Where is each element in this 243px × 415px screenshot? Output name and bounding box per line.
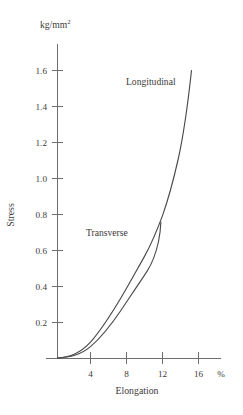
x-tick-label-8: 8 xyxy=(124,369,129,379)
y-axis-unit-exponent: 2 xyxy=(67,18,70,25)
x-tick-label-4: 4 xyxy=(88,369,93,379)
y-axis-unit-text: kg/mm xyxy=(40,19,68,30)
y-tick-label-0-6: 0.6 xyxy=(36,246,48,256)
x-axis-unit-label: % xyxy=(217,369,225,379)
y-tick-label-1-4: 1.4 xyxy=(36,102,48,112)
x-tick-label-12: 12 xyxy=(158,369,168,379)
y-axis-unit-label: kg/mm2 xyxy=(40,18,70,30)
x-tick-label-16: 16 xyxy=(194,369,204,379)
y-tick-label-1-6: 1.6 xyxy=(36,66,48,76)
y-tick-label-0-4: 0.4 xyxy=(36,282,48,292)
stress-elongation-chart: 1.6 1.4 1.2 1.0 0.8 0.6 0.4 0.2 4 8 12 1… xyxy=(0,0,243,415)
chart-canvas: 1.6 1.4 1.2 1.0 0.8 0.6 0.4 0.2 4 8 12 1… xyxy=(0,0,243,415)
y-tick-label-0-2: 0.2 xyxy=(36,318,48,328)
y-axis-title: Stress xyxy=(5,203,16,227)
transverse-curve xyxy=(58,222,161,358)
y-tick-label-1-2: 1.2 xyxy=(36,138,48,148)
y-tick-label-0-8: 0.8 xyxy=(36,210,48,220)
longitudinal-curve xyxy=(58,71,192,359)
x-axis-title: Elongation xyxy=(116,385,159,396)
series-label-longitudinal: Longitudinal xyxy=(126,76,176,87)
series-label-transverse: Transverse xyxy=(86,227,128,238)
y-tick-label-1-0: 1.0 xyxy=(36,174,48,184)
